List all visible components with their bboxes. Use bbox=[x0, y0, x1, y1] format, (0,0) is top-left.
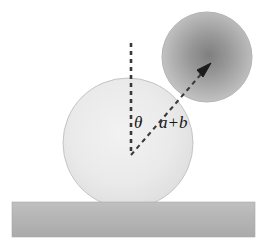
theta-label: θ bbox=[134, 113, 142, 132]
diagram-canvas: θ a+b bbox=[0, 0, 268, 243]
large-droplet bbox=[63, 78, 193, 208]
substrate-surface bbox=[12, 202, 255, 237]
figure-container: θ a+b bbox=[0, 0, 268, 243]
small-sphere bbox=[162, 12, 252, 102]
a-plus-b-label: a+b bbox=[159, 113, 187, 132]
